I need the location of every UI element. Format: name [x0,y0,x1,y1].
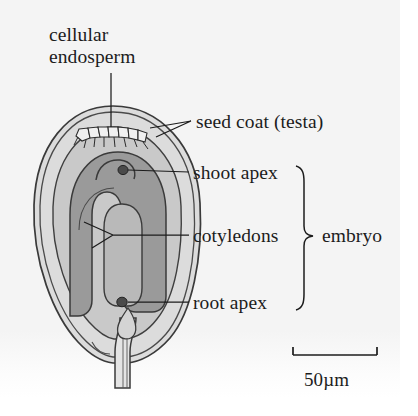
label-cellular-endosperm: cellular endosperm [49,24,135,68]
label-root-apex: root apex [193,292,267,314]
shoot-apex-dot [118,165,128,174]
figure-canvas: cellular endosperm seed coat (testa) sho… [0,0,418,416]
label-cotyledons: cotyledons [193,225,278,247]
label-cellular-endosperm-line2: endosperm [49,46,135,68]
label-shoot-apex: shoot apex [193,162,278,184]
label-embryo: embryo [322,225,382,247]
label-scale-bar: 50µm [304,369,349,391]
embryo-brace [296,166,313,310]
label-seed-coat: seed coat (testa) [196,111,323,133]
label-cellular-endosperm-line1: cellular [49,24,135,46]
root-apex-dot [117,297,127,307]
inner-cotyledon-lobe [104,204,142,306]
scale-bar [293,347,377,355]
